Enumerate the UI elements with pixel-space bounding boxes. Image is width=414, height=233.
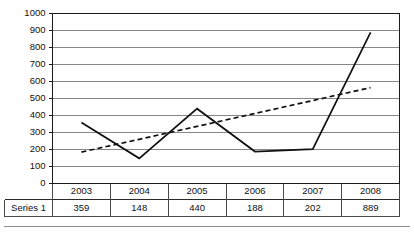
category-label: 2004: [129, 185, 150, 196]
category-label: 2003: [71, 185, 92, 196]
category-label: 2007: [302, 185, 323, 196]
y-tick-label: 300: [30, 126, 46, 137]
y-tick-label: 800: [30, 41, 46, 52]
table-cell-value: 359: [73, 202, 89, 213]
category-label: 2008: [360, 185, 381, 196]
category-label: 2006: [244, 185, 265, 196]
chart-figure: 01002003004005006007008009001000 2003200…: [0, 0, 414, 233]
y-tick-label: 200: [30, 143, 46, 154]
table-cell-value: 188: [247, 202, 263, 213]
line-chart: 01002003004005006007008009001000 2003200…: [0, 0, 414, 233]
table-cell-value: 202: [305, 202, 321, 213]
y-tick-label: 500: [30, 92, 46, 103]
y-tick-label: 0: [40, 177, 45, 188]
table-cell-value: 889: [363, 202, 379, 213]
category-label: 2005: [187, 185, 208, 196]
table-row-header: Series 1: [11, 202, 46, 213]
y-tick-label: 100: [30, 160, 46, 171]
table-cell-value: 148: [131, 202, 147, 213]
table-cell-value: 440: [189, 202, 205, 213]
y-tick-label: 700: [30, 58, 46, 69]
y-tick-label: 900: [30, 24, 46, 35]
y-tick-label: 400: [30, 109, 46, 120]
y-tick-label: 1000: [24, 7, 45, 18]
y-tick-label: 600: [30, 75, 46, 86]
